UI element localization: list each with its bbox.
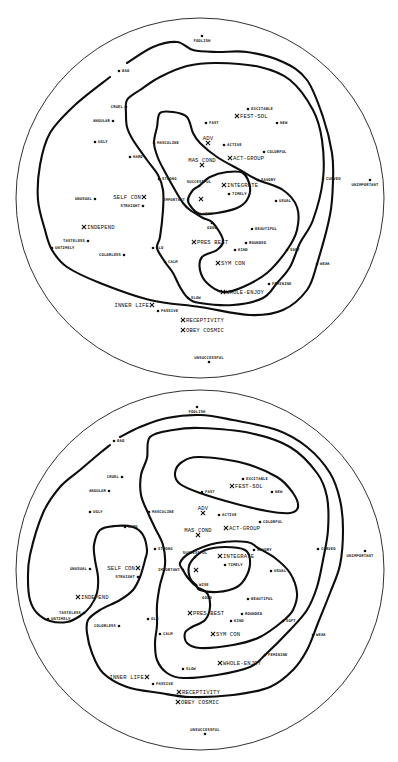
dot-marker-icon: [187, 297, 190, 300]
dot-marker-icon: [312, 634, 315, 637]
concept-label: WISE: [203, 211, 213, 216]
dot-marker-icon: [187, 199, 190, 202]
dot-marker-icon: [47, 618, 50, 621]
concept-label: NEW: [280, 120, 288, 125]
concept-point: GOOD: [207, 222, 217, 230]
concept-label: WEAK: [316, 632, 326, 637]
concept-point: BAD: [113, 438, 125, 443]
concept-point: UNSUCCESSFUL: [190, 727, 220, 735]
concept-label: SLOW: [186, 666, 196, 671]
concept-point: WHOLE-ENJOY: [221, 289, 264, 296]
dot-marker-icon: [194, 556, 197, 559]
x-marker-icon: [76, 595, 79, 598]
concept-label: TIMELY: [228, 562, 243, 567]
concept-label: SAVORY: [261, 177, 276, 182]
concept-point: ACT-GROUP: [224, 525, 260, 532]
concept-label: FEMININE: [268, 652, 288, 657]
dot-marker-icon: [201, 35, 204, 38]
bottom-semantic-map: FOOLISHBADCRUELANGULARUGLYMASCULINEHARDS…: [16, 390, 384, 750]
concept-label: SAVORY: [257, 547, 272, 552]
concept-point: [199, 197, 202, 200]
concept-point: CALM: [159, 631, 174, 636]
concept-point: PRES BEST: [188, 610, 224, 617]
dot-marker-icon: [241, 613, 244, 616]
dot-marker-icon: [263, 151, 266, 154]
concept-label: SUCCESSFUL: [187, 179, 212, 184]
concept-label: IMPORTANT: [163, 197, 186, 202]
concept-point: MASCULINE: [148, 509, 175, 514]
concept-label: OBEY COSMIC: [186, 327, 225, 334]
x-marker-icon: [235, 114, 238, 117]
concept-point: PASSIVE: [152, 681, 174, 686]
concept-point: OLD: [152, 245, 164, 250]
dot-marker-icon: [224, 564, 227, 567]
concept-label: OBEY COSMIC: [181, 699, 220, 706]
concept-label: ROUNDED: [249, 240, 267, 245]
x-marker-icon: [150, 303, 153, 306]
concept-label: ACTIVE: [227, 142, 242, 147]
concept-label: OLD: [151, 616, 159, 621]
concept-point: CURVED: [322, 176, 342, 181]
x-marker-icon: [176, 700, 179, 703]
dot-marker-icon: [316, 263, 319, 266]
concept-point: SLOW: [182, 666, 197, 671]
concept-point: OBEY COSMIC: [176, 699, 219, 706]
concept-label: BEAUTIFUL: [251, 596, 274, 601]
concept-point: NEW: [271, 489, 283, 494]
concept-point: CRUEL: [107, 474, 124, 479]
concept-point: RECEPTIVITY: [177, 689, 220, 696]
concept-label: ADV: [198, 505, 209, 512]
concept-point: PRES BEST: [192, 239, 228, 246]
concept-label: TASTELESS: [63, 238, 86, 243]
concept-label: ADV: [203, 135, 214, 142]
concept-label: GOOD: [202, 595, 212, 600]
dot-marker-icon: [322, 178, 325, 181]
concept-label: UGLY: [98, 139, 108, 144]
concept-label: RECEPTIVITY: [182, 689, 221, 696]
concept-label: SYM CON: [221, 260, 245, 267]
dot-marker-icon: [199, 213, 202, 216]
concept-point: SUCCESSFUL: [183, 550, 208, 558]
concept-label: ANGULAR: [93, 118, 111, 123]
dot-marker-icon: [247, 108, 250, 111]
contour-line: [38, 42, 334, 315]
dot-marker-icon: [118, 625, 121, 628]
concept-label: KIND: [238, 247, 248, 252]
concept-label: STRONG: [158, 546, 173, 551]
concept-label: FAST: [209, 120, 219, 125]
concept-label: STRAIGHT: [115, 574, 135, 579]
x-marker-icon: [136, 566, 139, 569]
concept-label: MASCULINE: [157, 140, 180, 145]
top-semantic-map: FOOLISHBADCRUELANGULARUGLYMASCULINEHARDS…: [16, 18, 384, 378]
dot-marker-icon: [121, 476, 124, 479]
concept-label: ACT-GROUP: [233, 155, 265, 162]
concept-point: ACTIVE: [223, 142, 243, 147]
concept-label: OLD: [156, 245, 164, 250]
concept-label: GOOD: [207, 225, 217, 230]
concept-point: UNIMPORTANT: [352, 179, 379, 187]
concept-label: CRUEL: [107, 474, 120, 479]
concept-label: SOFT: [290, 247, 300, 252]
concept-label: SELF CON: [107, 565, 135, 572]
dot-marker-icon: [259, 521, 262, 524]
concept-point: EXCITABLE: [247, 106, 274, 111]
dot-marker-icon: [148, 511, 151, 514]
concept-label: SUCCESSFUL: [183, 550, 208, 555]
concept-label: UNIMPORTANT: [347, 553, 374, 558]
concept-point: FOOLISH: [193, 35, 211, 43]
concept-label: IMPORTANT: [158, 567, 181, 572]
concept-point: SELF CON: [113, 194, 145, 201]
concept-label: KIND: [234, 618, 244, 623]
dot-marker-icon: [158, 178, 161, 181]
concept-point: SYM CON: [211, 631, 240, 638]
concept-point: STRAIGHT: [120, 203, 144, 208]
dot-marker-icon: [124, 526, 127, 529]
dot-marker-icon: [201, 491, 204, 494]
dot-marker-icon: [245, 242, 248, 245]
dot-marker-icon: [208, 361, 211, 364]
concept-point: UNIMPORTANT: [347, 550, 374, 558]
dot-marker-icon: [51, 247, 54, 250]
concept-point: INDEPEND: [82, 224, 115, 231]
concept-label: WEAK: [320, 261, 330, 266]
concept-point: KIND: [234, 247, 249, 252]
